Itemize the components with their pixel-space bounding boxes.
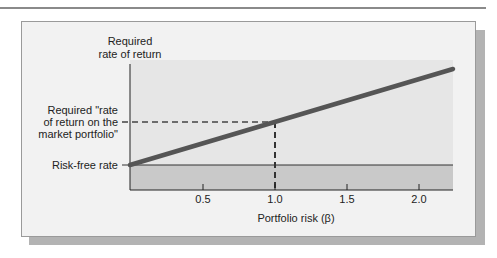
ylabel-line-1: Required xyxy=(108,35,153,47)
market-label-line-3: market portfolio" xyxy=(38,128,118,140)
riskfree-label: Risk-free rate xyxy=(52,159,118,171)
market-label-line-1: Required "rate xyxy=(47,104,118,116)
market-label-line-2: of return on the xyxy=(43,116,118,128)
tick-label-0.5: 0.5 xyxy=(195,193,210,205)
tick-label-2.0: 2.0 xyxy=(411,193,426,205)
xlabel: Portfolio risk (β) xyxy=(257,212,334,224)
tick-label-1.5: 1.5 xyxy=(339,193,354,205)
sml-chart: Required rate of return Required "rate o… xyxy=(0,0,497,258)
ylabel-line-2: rate of return xyxy=(99,48,162,60)
tick-label-1.0: 1.0 xyxy=(267,193,282,205)
riskfree-band xyxy=(130,165,453,190)
